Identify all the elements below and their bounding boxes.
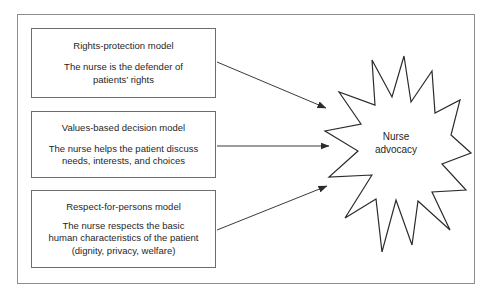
model-box-rights-protection: Rights-protection model The nurse is the… [31,28,216,98]
model-description: The nurse is the defender of patients’ r… [64,61,183,86]
model-description-line: The nurse helps the patient discuss [49,143,198,156]
nurse-advocacy-starburst: Nurse advocacy [320,52,472,252]
starburst-label: Nurse advocacy [320,130,472,156]
model-description-line: patients’ rights [64,74,183,87]
model-title: Rights-protection model [73,40,173,52]
model-description-line: The nurse is the defender of [64,61,183,74]
model-title: Values-based decision model [62,122,185,134]
model-description: The nurse respects the basic human chara… [49,220,199,258]
model-title: Respect-for-persons model [66,201,181,213]
model-description-line: (dignity, privacy, welfare) [49,245,199,258]
starburst-label-line: advocacy [320,143,472,156]
starburst-label-line: Nurse [320,130,472,143]
model-description-line: human characteristics of the patient [49,232,199,245]
model-box-values-based: Values-based decision model The nurse he… [31,111,216,178]
model-description-line: needs, interests, and choices [49,155,198,168]
model-description: The nurse helps the patient discuss need… [49,143,198,168]
model-box-respect-persons: Respect-for-persons model The nurse resp… [31,190,216,268]
model-description-line: The nurse respects the basic [49,220,199,233]
